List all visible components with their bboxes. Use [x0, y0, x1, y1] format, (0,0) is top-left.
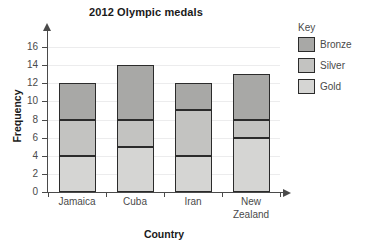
x-axis-label-line: Jamaica	[48, 196, 106, 209]
x-axis-label: Cuba	[106, 196, 164, 209]
legend-label: Gold	[320, 81, 341, 92]
legend-label: Silver	[320, 60, 345, 71]
y-axis-tick-label: 14	[0, 59, 38, 70]
legend-item-gold: Gold	[298, 79, 374, 94]
legend-swatch-silver	[298, 58, 315, 73]
y-axis-line	[47, 30, 48, 192]
bar-segment-silver	[175, 110, 212, 155]
bar-segment-gold	[59, 156, 96, 192]
y-axis-tick	[42, 192, 47, 193]
bar-segment-bronze	[117, 65, 154, 119]
bar-segment-silver	[59, 120, 96, 156]
x-axis-label-line: Cuba	[106, 196, 164, 209]
x-axis-arrow-icon	[283, 189, 291, 197]
bar-jamaica	[59, 83, 96, 192]
legend-label: Bronze	[320, 39, 352, 50]
bar-segment-silver	[117, 120, 154, 147]
y-axis-title: Frequency	[11, 71, 23, 161]
x-axis-title: Country	[48, 228, 280, 240]
bar-segment-bronze	[175, 83, 212, 110]
bar-segment-gold	[233, 138, 270, 192]
y-axis-tick	[42, 138, 47, 139]
legend-swatch-bronze	[298, 37, 315, 52]
y-axis-tick	[42, 174, 47, 175]
bar-iran	[175, 83, 212, 192]
legend-title: Key	[298, 22, 374, 33]
x-axis-label-line: New	[222, 196, 280, 209]
bar-segment-bronze	[59, 83, 96, 119]
y-axis-tick	[42, 47, 47, 48]
gridline	[48, 47, 280, 48]
legend-item-silver: Silver	[298, 58, 374, 73]
legend: Key BronzeSilverGold	[298, 22, 374, 100]
x-axis-label-line: Iran	[164, 196, 222, 209]
y-axis-tick-label: 16	[0, 41, 38, 52]
x-axis-line	[47, 192, 284, 193]
x-axis-label-line: Zealand	[222, 209, 280, 222]
bar-segment-bronze	[233, 74, 270, 119]
x-axis-label: Jamaica	[48, 196, 106, 209]
y-axis-tick-label: 2	[0, 168, 38, 179]
y-axis-tick	[42, 83, 47, 84]
bar-new-zealand	[233, 74, 270, 192]
x-axis-label: NewZealand	[222, 196, 280, 221]
bar-segment-silver	[233, 120, 270, 138]
chart-title: 2012 Olympic medals	[0, 6, 292, 18]
y-axis-tick	[42, 120, 47, 121]
bar-cuba	[117, 65, 154, 192]
stacked-bar-chart: 2012 Olympic medals 0246810121416 Jamaic…	[0, 0, 376, 249]
y-axis-tick	[42, 101, 47, 102]
bar-segment-gold	[117, 147, 154, 192]
gridline	[48, 65, 280, 66]
x-axis-tick	[280, 192, 281, 197]
y-axis-tick-label: 0	[0, 186, 38, 197]
y-axis-tick	[42, 65, 47, 66]
legend-item-bronze: Bronze	[298, 37, 374, 52]
bar-segment-gold	[175, 156, 212, 192]
legend-swatch-gold	[298, 79, 315, 94]
x-axis-label: Iran	[164, 196, 222, 209]
y-axis-tick	[42, 156, 47, 157]
y-axis-arrow-icon	[43, 23, 51, 31]
